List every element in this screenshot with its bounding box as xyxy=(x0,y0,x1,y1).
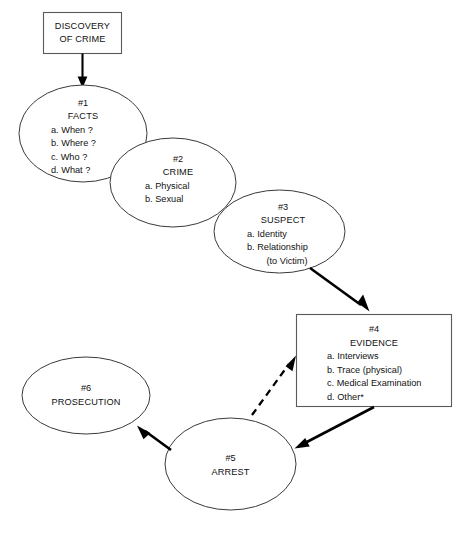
facts-item-d: d. What ? xyxy=(51,165,90,175)
facts-title: FACTS xyxy=(68,111,98,121)
suspect-to-evidence-arrowhead xyxy=(357,295,369,312)
evidence-item-c: c. Medical Examination xyxy=(327,378,421,388)
crime-number: #2 xyxy=(173,154,183,164)
evidence-title: EVIDENCE xyxy=(350,338,398,348)
evidence-item-b: b. Trace (physical) xyxy=(327,365,402,375)
prosecution-number: #6 xyxy=(81,383,91,393)
crime-item-a: a. Physical xyxy=(145,181,189,191)
facts-item-c: c. Who ? xyxy=(51,152,87,162)
crime-investigation-diagram: DISCOVERY OF CRIME #1 FACTS a. When ? b.… xyxy=(0,0,463,533)
discovery-of-crime-line1: DISCOVERY xyxy=(55,21,110,31)
arrest-title: ARREST xyxy=(211,467,249,477)
evidence-item-d: d. Other* xyxy=(327,392,364,402)
arrest-number: #5 xyxy=(225,453,235,463)
facts-item-a: a. When ? xyxy=(51,125,93,135)
crime-title: CRIME xyxy=(163,167,193,177)
suspect-number: #3 xyxy=(278,202,288,212)
arrest-ellipse[interactable] xyxy=(165,418,296,510)
node-suspect[interactable]: #3 SUSPECT a. Identity b. Relationship (… xyxy=(214,190,345,273)
discovery-of-crime-line2: OF CRIME xyxy=(59,34,105,44)
suspect-item-b: b. Relationship xyxy=(247,242,308,252)
connector-evidence-to-arrest xyxy=(295,407,375,449)
suspect-to-evidence-line xyxy=(310,268,361,305)
prosecution-ellipse[interactable] xyxy=(22,357,150,434)
suspect-title: SUSPECT xyxy=(261,215,306,225)
node-discovery-of-crime[interactable]: DISCOVERY OF CRIME xyxy=(44,13,122,54)
node-arrest[interactable]: #5 ARREST xyxy=(165,418,296,510)
connector-discovery-to-facts xyxy=(78,54,88,89)
arrest-to-prosecution-arrowhead xyxy=(137,426,150,440)
node-prosecution[interactable]: #6 PROSECUTION xyxy=(22,357,150,434)
connector-arrest-to-evidence xyxy=(252,356,296,416)
suspect-item-b-note: (to Victim) xyxy=(266,256,307,266)
arrest-to-evidence-line xyxy=(252,364,289,415)
connector-arrest-to-prosecution xyxy=(137,426,171,451)
node-crime[interactable]: #2 CRIME a. Physical b. Sexual xyxy=(110,138,236,227)
evidence-to-arrest-arrowhead xyxy=(295,438,310,449)
evidence-number: #4 xyxy=(369,324,379,334)
crime-item-b: b. Sexual xyxy=(145,194,183,204)
node-evidence[interactable]: #4 EVIDENCE a. Interviews b. Trace (phys… xyxy=(297,315,452,407)
facts-number: #1 xyxy=(78,98,88,108)
prosecution-title: PROSECUTION xyxy=(51,397,120,407)
arrest-to-evidence-arrowhead xyxy=(286,356,296,372)
flow-diagram-canvas: DISCOVERY OF CRIME #1 FACTS a. When ? b.… xyxy=(0,0,463,533)
suspect-item-a: a. Identity xyxy=(247,229,287,239)
evidence-item-a: a. Interviews xyxy=(327,351,379,361)
facts-item-b: b. Where ? xyxy=(51,138,96,148)
evidence-to-arrest-line xyxy=(303,407,374,444)
connector-suspect-to-evidence xyxy=(310,268,370,312)
